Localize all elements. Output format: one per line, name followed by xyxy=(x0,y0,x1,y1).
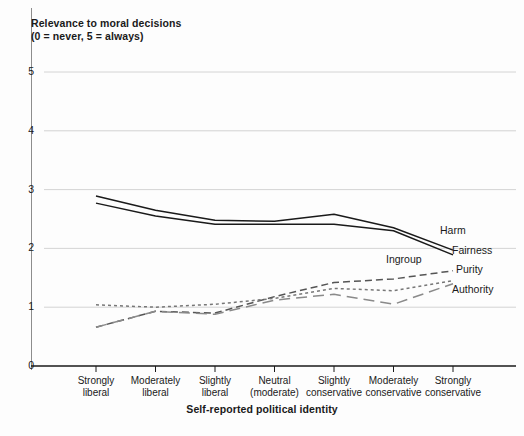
chart-figure: Relevance to moral decisions (0 = never,… xyxy=(0,0,524,436)
series-line-harm xyxy=(96,196,453,250)
plot-area xyxy=(0,0,524,436)
series-label-fairness: Fairness xyxy=(452,244,492,256)
x-tick-label: Strongly conservative xyxy=(415,375,491,399)
x-tick-marks xyxy=(96,366,453,372)
y-tick-label: 2 xyxy=(14,241,34,253)
series-line-authority xyxy=(96,284,453,328)
y-tick-label: 4 xyxy=(14,124,34,136)
series-label-harm: Harm xyxy=(440,224,466,236)
series-label-authority: Authority xyxy=(452,283,493,295)
x-axis-title: Self-reported political identity xyxy=(0,403,524,416)
series-label-ingroup: Ingroup xyxy=(386,253,422,265)
series-line-ingroup xyxy=(96,271,453,327)
y-tick-label: 5 xyxy=(14,65,34,77)
series-line-fairness xyxy=(96,203,453,255)
y-tick-label: 1 xyxy=(14,300,34,312)
y-tick-label: 3 xyxy=(14,183,34,195)
series-line-purity xyxy=(96,281,453,307)
series-label-purity: Purity xyxy=(456,263,483,275)
y-tick-label: 0 xyxy=(14,359,34,371)
